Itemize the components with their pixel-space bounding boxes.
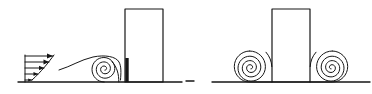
velocity-arrow-head — [39, 66, 44, 70]
vortex-outer-rim — [112, 62, 119, 82]
separation-streamline — [59, 56, 121, 80]
building-rectangle-left — [125, 9, 163, 82]
panel-side-elevation — [18, 9, 182, 82]
vortex-spiral — [238, 51, 265, 81]
vortex-outer-rim — [234, 51, 272, 82]
velocity-arrow-head — [44, 60, 50, 65]
vortex-outer-rim — [310, 51, 348, 82]
panel-front-elevation — [186, 9, 370, 82]
horseshoe-vortex-left — [234, 51, 272, 82]
vortex-wall-rim — [310, 52, 316, 66]
building-rectangle-right — [272, 9, 310, 82]
vortex-wall-rim — [266, 52, 272, 66]
vortex-spiral — [317, 51, 344, 81]
diagram-canvas — [0, 0, 372, 94]
horseshoe-vortex-right — [310, 51, 348, 82]
velocity-arrow-head — [28, 78, 32, 81]
approach-velocity-profile — [25, 53, 54, 82]
standing-vortex-spiral — [92, 58, 115, 83]
figure-root: Airflow around a building: approach velo… — [0, 0, 372, 94]
